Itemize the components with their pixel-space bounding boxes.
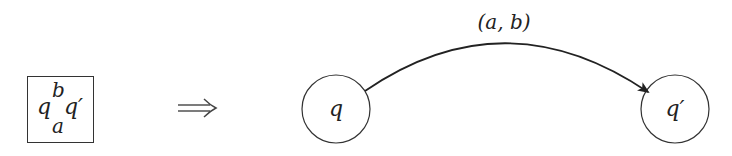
transition-arrow [365,43,648,92]
transition-label: (a, b) [477,10,530,34]
state-q-prime-label: q′ [665,96,684,121]
implies-arrow-icon [178,99,216,117]
automaton-diagram: q q′ (a, b) [0,0,732,156]
state-q-label: q [329,96,343,121]
